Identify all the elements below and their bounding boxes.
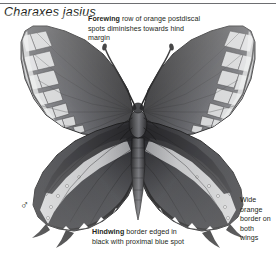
caption-forewing: Forewing row of orange postdiscal spots … bbox=[88, 15, 202, 44]
butterfly-specimen-image bbox=[0, 14, 276, 262]
caption-forewing-lead: Forewing bbox=[88, 15, 120, 23]
thorax bbox=[129, 110, 147, 138]
caption-hindwing: Hindwing border edged in black with prox… bbox=[92, 228, 190, 247]
caption-orange-border: Wide orange border on both wings bbox=[240, 196, 274, 244]
caption-hindwing-lead: Hindwing bbox=[92, 228, 124, 236]
specimen-illustration bbox=[0, 14, 276, 262]
header-rule bbox=[0, 3, 276, 4]
hindwing-tail-outer bbox=[32, 224, 50, 238]
thorax-abdomen bbox=[129, 103, 147, 220]
field-guide-page: Charaxes jasius bbox=[0, 0, 276, 266]
hindwing-tail-inner bbox=[56, 230, 74, 248]
antennae-clubs bbox=[102, 43, 175, 51]
caption-orange-border-body: Wide orange border on both wings bbox=[240, 196, 271, 242]
male-symbol-icon: ♂ bbox=[20, 199, 29, 211]
hindwing-tail-inner-right bbox=[202, 230, 220, 248]
